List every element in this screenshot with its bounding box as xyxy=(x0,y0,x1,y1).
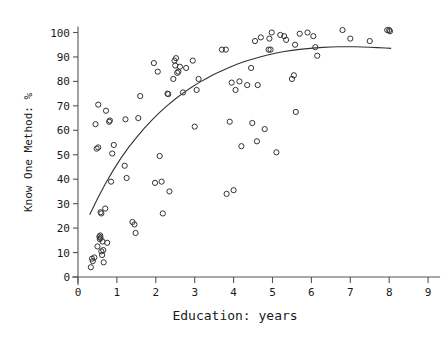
y-tick-label: 90 xyxy=(28,50,70,63)
data-point xyxy=(340,27,345,32)
data-point xyxy=(231,188,236,193)
data-point xyxy=(194,87,199,92)
axes-group xyxy=(72,27,440,286)
y-axis-title: Know One Method: % xyxy=(22,93,35,212)
x-tick-label: 5 xyxy=(269,286,276,299)
data-point xyxy=(223,47,228,52)
data-point xyxy=(233,87,238,92)
data-point xyxy=(239,144,244,149)
data-point xyxy=(245,82,250,87)
data-point xyxy=(111,142,116,147)
x-tick-label: 6 xyxy=(308,286,315,299)
data-point xyxy=(110,151,115,156)
data-point xyxy=(255,82,260,87)
data-point xyxy=(101,260,106,265)
x-tick-label: 3 xyxy=(191,286,198,299)
data-point xyxy=(95,244,100,249)
data-point xyxy=(274,150,279,155)
data-point xyxy=(96,145,101,150)
x-tick-label: 2 xyxy=(152,286,159,299)
data-point xyxy=(93,122,98,127)
y-tick-label: 20 xyxy=(28,222,70,235)
data-point xyxy=(250,120,255,125)
data-point xyxy=(229,80,234,85)
data-point xyxy=(315,53,320,58)
x-tick-label: 4 xyxy=(230,286,237,299)
data-point xyxy=(123,117,128,122)
data-point xyxy=(262,126,267,131)
data-point xyxy=(136,115,141,120)
data-point xyxy=(152,180,157,185)
x-tick-label: 1 xyxy=(114,286,121,299)
data-point xyxy=(108,179,113,184)
data-point xyxy=(96,102,101,107)
y-tick-label: 100 xyxy=(28,26,70,39)
data-point xyxy=(254,139,259,144)
data-point xyxy=(151,60,156,65)
data-point xyxy=(196,76,201,81)
data-point xyxy=(171,76,176,81)
data-point xyxy=(138,93,143,98)
data-point xyxy=(167,189,172,194)
data-points-group xyxy=(88,27,392,269)
data-point xyxy=(237,79,242,84)
data-point xyxy=(313,45,318,50)
data-point xyxy=(269,30,274,35)
data-point xyxy=(192,124,197,129)
data-point xyxy=(348,36,353,41)
scatter-plot-figure: 01020304050607080901000123456789 Know On… xyxy=(0,0,448,337)
data-point xyxy=(103,108,108,113)
data-point xyxy=(177,64,182,69)
data-point xyxy=(103,206,108,211)
x-tick-label: 8 xyxy=(386,286,393,299)
data-point xyxy=(293,109,298,114)
data-point xyxy=(297,31,302,36)
data-point xyxy=(249,65,254,70)
data-point xyxy=(159,179,164,184)
data-point xyxy=(184,65,189,70)
x-tick-label: 9 xyxy=(425,286,432,299)
data-point xyxy=(155,69,160,74)
data-point xyxy=(100,252,105,257)
data-point xyxy=(133,230,138,235)
data-point xyxy=(252,38,257,43)
data-point xyxy=(122,163,127,168)
x-axis-title: Education: years xyxy=(172,308,297,323)
data-point xyxy=(292,42,297,47)
data-point xyxy=(267,36,272,41)
data-point xyxy=(88,265,93,270)
x-tick-label: 0 xyxy=(75,286,82,299)
trend-line xyxy=(90,47,391,215)
data-point xyxy=(367,38,372,43)
y-tick-label: 80 xyxy=(28,75,70,88)
data-point xyxy=(124,175,129,180)
data-point xyxy=(311,34,316,39)
data-point xyxy=(224,191,229,196)
data-point xyxy=(160,211,165,216)
y-tick-label: 0 xyxy=(28,271,70,284)
data-point xyxy=(227,119,232,124)
data-point xyxy=(190,58,195,63)
x-tick-label: 7 xyxy=(347,286,354,299)
data-point xyxy=(305,30,310,35)
data-point xyxy=(258,35,263,40)
y-tick-label: 10 xyxy=(28,246,70,259)
data-point xyxy=(157,153,162,158)
